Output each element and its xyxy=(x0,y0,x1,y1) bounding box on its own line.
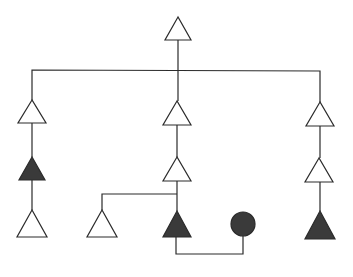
open-triangle-node-mid-1 xyxy=(163,101,191,125)
edge-mid-branch xyxy=(102,194,177,210)
open-triangle-node-mid-2 xyxy=(163,157,191,181)
filled-triangle-node-mid-3b xyxy=(163,211,191,237)
open-triangle-node-root xyxy=(165,17,191,40)
pedigree-chart-canvas xyxy=(0,0,353,277)
filled-triangle-node-left-2 xyxy=(19,157,45,180)
open-triangle-node-mid-3a xyxy=(87,210,117,237)
pedigree-nodes xyxy=(17,17,335,239)
filled-triangle-node-right-3 xyxy=(305,211,335,239)
open-triangle-node-left-1 xyxy=(18,100,46,123)
open-triangle-node-right-2 xyxy=(305,158,333,182)
edge-sibship-bar xyxy=(32,70,320,102)
pedigree-diagram xyxy=(0,0,353,277)
open-triangle-node-left-3 xyxy=(17,210,47,237)
filled-circle-node-mate xyxy=(231,212,255,236)
edge-marriage-line xyxy=(176,236,243,254)
open-triangle-node-right-1 xyxy=(306,102,334,126)
